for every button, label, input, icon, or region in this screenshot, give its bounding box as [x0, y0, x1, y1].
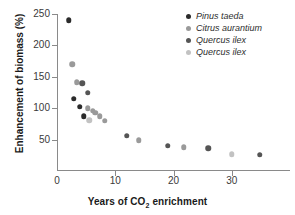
data-point [257, 152, 263, 158]
legend-item: Quercus ilex [186, 47, 294, 58]
data-point [124, 133, 130, 139]
data-point [71, 96, 77, 102]
data-point [66, 18, 72, 24]
data-point [77, 104, 83, 110]
legend-label: Quercus ilex [196, 36, 246, 45]
legend-marker-icon [186, 38, 191, 43]
data-point [165, 143, 171, 149]
legend-label: Citrus aurantium [196, 24, 262, 33]
data-point [136, 137, 142, 143]
chart-legend: Pinus taedaCitrus aurantiumQuercus ilexQ… [186, 11, 294, 59]
data-point [85, 90, 91, 96]
data-point [181, 144, 187, 150]
legend-marker-icon [186, 50, 191, 55]
x-tick-label: 10 [110, 176, 121, 186]
legend-item: Quercus ilex [186, 35, 294, 46]
y-tick-label: 100 [33, 103, 50, 113]
y-tick-label: 150 [33, 72, 50, 82]
y-tick-label: 200 [33, 40, 50, 50]
y-axis-tick-labels: 50100150200250 [0, 0, 50, 215]
scatter-chart: 50100150200250 0102030 Years of CO2 enri… [0, 0, 295, 215]
x-tick-label: 0 [54, 176, 60, 186]
y-axis-title: Enhancement of biomass (%) [14, 4, 25, 164]
x-tick-label: 20 [168, 176, 179, 186]
legend-label: Quercus ilex [196, 48, 246, 57]
data-point [79, 80, 85, 86]
legend-marker-icon [186, 26, 191, 31]
x-tick-mark [174, 171, 175, 176]
x-tick-mark [232, 171, 233, 176]
x-tick-mark [115, 171, 116, 176]
y-tick-label: 250 [33, 9, 50, 19]
legend-item: Pinus taeda [186, 11, 294, 22]
data-point [102, 118, 108, 124]
x-axis-title-suffix: enrichment [150, 196, 208, 207]
data-point [69, 61, 75, 67]
x-axis-title: Years of CO2 enrichment [0, 196, 295, 209]
legend-item: Citrus aurantium [186, 23, 294, 34]
data-point [86, 117, 92, 123]
data-point [206, 146, 212, 152]
data-point [229, 151, 235, 157]
x-axis-title-prefix: Years of CO [88, 196, 146, 207]
x-tick-label: 30 [226, 176, 237, 186]
y-tick-label: 50 [39, 135, 50, 145]
legend-marker-icon [186, 14, 191, 19]
legend-label: Pinus taeda [196, 12, 244, 21]
